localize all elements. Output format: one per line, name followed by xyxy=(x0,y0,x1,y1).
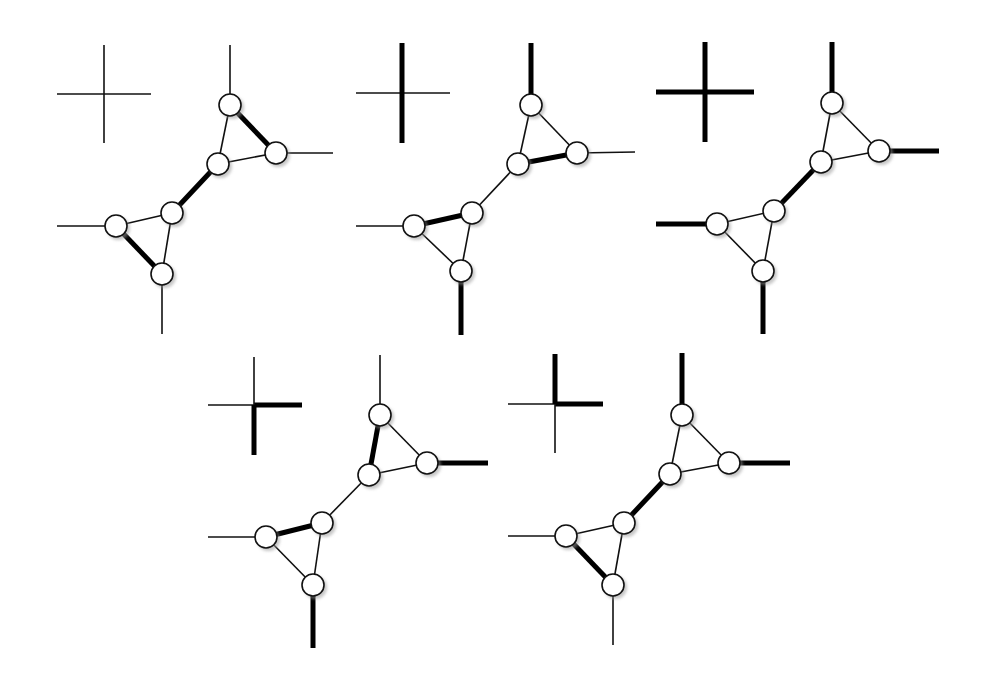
node-bottom xyxy=(450,260,472,282)
node-bottom xyxy=(151,263,173,285)
node-top xyxy=(671,404,693,426)
node-bottom xyxy=(752,260,774,282)
node-midTop xyxy=(207,153,229,175)
node-midTop xyxy=(507,153,529,175)
node-right xyxy=(566,142,588,164)
node-midTop xyxy=(358,464,380,486)
panel-2 xyxy=(356,43,635,335)
node-left xyxy=(255,526,277,548)
node-top xyxy=(520,94,542,116)
node-right xyxy=(416,452,438,474)
diagram-canvas xyxy=(0,0,988,684)
node-left xyxy=(403,215,425,237)
node-midBottom xyxy=(461,202,483,224)
node-midBottom xyxy=(613,512,635,534)
node-midBottom xyxy=(311,512,333,534)
node-top xyxy=(219,94,241,116)
node-bottom xyxy=(302,574,324,596)
node-right xyxy=(718,452,740,474)
node-bottom xyxy=(602,574,624,596)
node-midTop xyxy=(659,463,681,485)
node-left xyxy=(555,525,577,547)
node-top xyxy=(369,404,391,426)
panel-3 xyxy=(656,42,939,334)
node-right xyxy=(868,140,890,162)
node-left xyxy=(105,215,127,237)
node-midBottom xyxy=(161,202,183,224)
panel-4 xyxy=(208,355,488,648)
node-midTop xyxy=(810,151,832,173)
node-right xyxy=(265,142,287,164)
node-top xyxy=(821,92,843,114)
panel-1 xyxy=(57,45,333,334)
node-midBottom xyxy=(763,200,785,222)
panel-5 xyxy=(508,353,790,645)
node-left xyxy=(706,213,728,235)
